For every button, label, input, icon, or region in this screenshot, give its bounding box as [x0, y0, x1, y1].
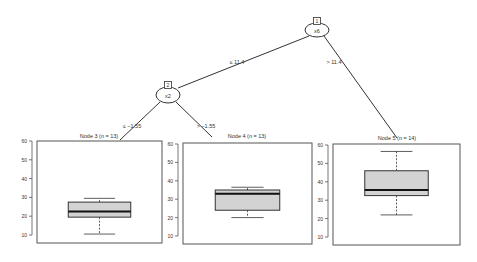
edge-2-4: [176, 102, 212, 137]
y-tick-label: 30: [21, 194, 27, 200]
y-tick-label: 40: [317, 179, 323, 185]
terminal-node-title: Node 3 (n = 13): [80, 133, 119, 139]
terminal-node-title: Node 4 (n = 13): [228, 133, 267, 139]
node-id: 2: [167, 82, 170, 88]
y-tick-label: 10: [167, 233, 173, 239]
y-tick-label: 10: [317, 234, 323, 240]
edge-label-2-3: ≤ −1.55: [123, 123, 141, 129]
edge-2-3: [120, 102, 160, 140]
terminal-node-4: Node 4 (n = 13) 102030405060: [167, 133, 312, 244]
y-tick-label: 30: [317, 197, 323, 203]
y-tick-label: 20: [317, 216, 323, 222]
inner-node-1: 1 x6: [305, 18, 329, 38]
y-tick-label: 40: [21, 176, 27, 182]
node-variable: x6: [314, 28, 320, 34]
terminal-node-title: Node 5 (n = 14): [378, 135, 417, 141]
y-tick-label: 60: [21, 138, 27, 144]
node-id: 1: [316, 18, 319, 24]
iqr-box: [365, 171, 429, 196]
decision-tree-diagram: ≤ 11.4 > 11.4 ≤ −1.55 > −1.55 1 x6 2 x2 …: [0, 0, 477, 262]
y-tick-label: 50: [21, 157, 27, 163]
inner-node-2: 2 x2: [156, 82, 180, 104]
y-tick-label: 20: [21, 213, 27, 219]
y-tick-label: 20: [167, 215, 173, 221]
node-variable: x2: [165, 93, 171, 99]
edge-label-2-4: > −1.55: [197, 123, 216, 129]
y-tick-label: 60: [317, 142, 323, 148]
terminal-node-3: Node 3 (n = 13) 102030405060: [21, 133, 162, 243]
y-tick-label: 10: [21, 232, 27, 238]
y-tick-label: 50: [167, 159, 173, 165]
edge-1-5: [324, 36, 397, 138]
y-tick-label: 40: [167, 178, 173, 184]
terminal-node-5: Node 5 (n = 14) 102030405060: [317, 135, 460, 245]
y-tick-label: 30: [167, 196, 173, 202]
y-tick-label: 50: [317, 160, 323, 166]
y-tick-label: 60: [167, 141, 173, 147]
edge-label-1-2: ≤ 11.4: [230, 59, 245, 65]
edge-label-1-5: > 11.4: [326, 59, 341, 65]
iqr-box: [68, 202, 131, 217]
